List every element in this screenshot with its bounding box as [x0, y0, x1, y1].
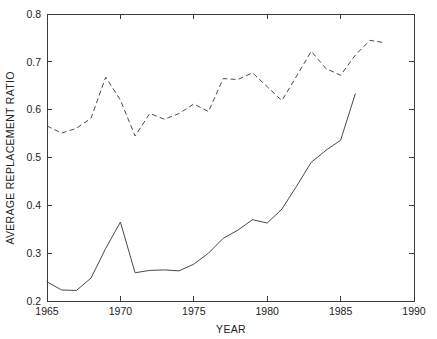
- x-tick-label: 1980: [256, 305, 280, 317]
- x-tick-label: 1975: [182, 305, 206, 317]
- y-tick-label: 0.7: [26, 56, 41, 68]
- y-tick-label: 0.2: [26, 295, 41, 307]
- axes: [47, 14, 414, 301]
- x-tick-label: 1990: [402, 305, 426, 317]
- data-series-group: [47, 40, 385, 290]
- y-tick-label: 0.6: [26, 103, 41, 115]
- y-axis-tick-labels: 0.20.30.40.50.60.70.8: [26, 8, 41, 307]
- x-axis-tick-labels: 196519701975198019851990: [35, 305, 426, 317]
- x-axis-title: YEAR: [216, 323, 246, 335]
- y-tick-label: 0.4: [26, 199, 41, 211]
- tick-marks: [47, 14, 414, 301]
- x-tick-label: 1970: [109, 305, 133, 317]
- series-line-dashed: [47, 40, 385, 136]
- plot-border: [47, 14, 414, 301]
- series-line-solid: [47, 94, 355, 291]
- y-tick-label: 0.5: [26, 151, 41, 163]
- line-chart-plot: 196519701975198019851990 0.20.30.40.50.6…: [0, 0, 437, 339]
- y-tick-label: 0.3: [26, 247, 41, 259]
- chart-figure: 196519701975198019851990 0.20.30.40.50.6…: [0, 0, 437, 339]
- x-tick-label: 1985: [329, 305, 353, 317]
- y-tick-label: 0.8: [26, 8, 41, 20]
- y-axis-title: AVERAGE REPLACEMENT RATIO: [4, 71, 16, 244]
